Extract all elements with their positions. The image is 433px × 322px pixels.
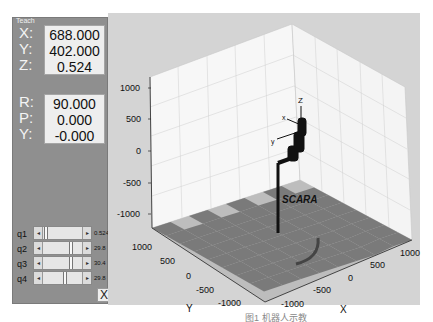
q1-slider[interactable]: ◂ ▸	[33, 226, 92, 240]
q1-slider-thumb[interactable]	[44, 227, 48, 239]
q4-value: 29.8	[94, 275, 106, 281]
orientation-readout: 90.000 0.000 -0.000	[44, 94, 105, 144]
y-tick-0: 0	[186, 271, 191, 281]
z-value: 0.524	[45, 59, 104, 75]
x-tick-neg500: -500	[313, 285, 331, 295]
q3-increment-icon[interactable]: ▸	[82, 257, 91, 269]
x-tick-neg1000: -1000	[281, 299, 304, 309]
y-tick-500: 500	[160, 256, 175, 266]
z-tick-neg500: -500	[123, 178, 141, 188]
y-label: Y:	[19, 41, 32, 57]
roll-value: 90.000	[45, 96, 104, 112]
q3-slider[interactable]: ◂ ▸	[33, 256, 92, 270]
q1-increment-icon[interactable]: ▸	[82, 227, 91, 239]
q4-slider-thumb[interactable]	[63, 272, 67, 284]
figure-caption: 图1 机器人示教	[245, 311, 307, 322]
x-tick-0: 0	[348, 273, 353, 283]
position-readout: 688.000 402.000 0.524	[44, 25, 105, 75]
q2-increment-icon[interactable]: ▸	[82, 242, 91, 254]
q2-decrement-icon[interactable]: ◂	[34, 242, 43, 254]
q2-label: q2	[17, 244, 27, 254]
frame-x-label: x	[282, 114, 286, 121]
x-tick-1000: 1000	[400, 248, 420, 258]
z-tick-1000: 1000	[120, 83, 140, 93]
yaw-label: Y:	[19, 126, 32, 142]
y-tick-neg500: -500	[196, 285, 214, 295]
frame-z-label: Z	[298, 96, 303, 105]
q2-value: 29.8	[94, 245, 106, 251]
y-tick-1000: 1000	[132, 242, 152, 252]
yaw-value: -0.000	[45, 128, 104, 144]
q2-slider[interactable]: ◂ ▸	[33, 241, 92, 255]
frame-y-label: y	[271, 138, 275, 146]
z-tick-500: 500	[126, 114, 141, 124]
x-tick-500: 500	[370, 260, 385, 270]
x-label: X:	[19, 25, 33, 41]
y-value: 402.000	[45, 43, 104, 59]
q3-decrement-icon[interactable]: ◂	[34, 257, 43, 269]
teach-panel-title: Teach	[16, 17, 35, 24]
pitch-label: P:	[19, 110, 33, 126]
roll-label: R:	[19, 94, 34, 110]
x-value: 688.000	[45, 27, 104, 43]
teach-panel: Teach X: Y: Z: 688.000 402.000 0.524 R: …	[12, 17, 108, 304]
pitch-value: 0.000	[45, 112, 104, 128]
robot-3d-plot[interactable]: Z x y 1000 500 0 -500 -1000 1000 500 0 -…	[108, 13, 420, 305]
z-tick-0: 0	[136, 146, 141, 156]
x-axis-label: X	[340, 304, 347, 315]
z-tick-neg1000: -1000	[117, 209, 140, 219]
q4-decrement-icon[interactable]: ◂	[34, 272, 43, 284]
q3-value: 30.4	[94, 260, 106, 266]
z-label: Z:	[19, 57, 32, 73]
y-tick-neg1000: -1000	[218, 298, 241, 308]
q4-label: q4	[17, 274, 27, 284]
q1-decrement-icon[interactable]: ◂	[34, 227, 43, 239]
q1-value: 0.524	[94, 230, 109, 236]
q4-increment-icon[interactable]: ▸	[82, 272, 91, 284]
q2-slider-thumb[interactable]	[69, 242, 73, 254]
q4-slider[interactable]: ◂ ▸	[33, 271, 92, 285]
q1-label: q1	[17, 229, 27, 239]
robot-name-label: SCARA	[282, 194, 318, 205]
y-axis-label: Y	[186, 303, 193, 314]
q3-slider-thumb[interactable]	[69, 257, 73, 269]
q3-label: q3	[17, 259, 27, 269]
